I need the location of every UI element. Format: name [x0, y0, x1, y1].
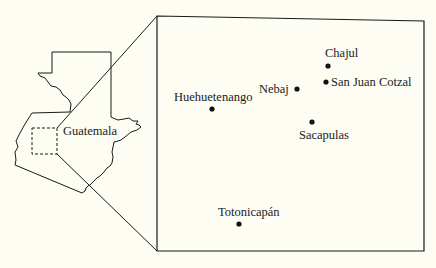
- place-label: Sacapulas: [299, 128, 349, 142]
- place-dot: [209, 106, 214, 111]
- country-label: Guatemala: [63, 124, 118, 138]
- place-dot: [236, 221, 241, 226]
- inset-frame: [157, 16, 424, 251]
- place-dot: [294, 86, 299, 91]
- place-label: Huehuetenango: [174, 90, 252, 104]
- connector-line-top: [57, 16, 157, 128]
- place-dot: [323, 79, 328, 84]
- place-huehuetenango: Huehuetenango: [174, 90, 252, 112]
- place-totonicapan: Totonicapán: [218, 205, 280, 227]
- guatemala-outline: [15, 52, 141, 193]
- place-dot: [325, 63, 330, 68]
- map-figure: Guatemala Chajul Nebaj San Juan Cotzal H…: [0, 0, 436, 268]
- place-sacapulas: Sacapulas: [299, 119, 349, 142]
- place-label: San Juan Cotzal: [331, 75, 412, 89]
- place-label: Nebaj: [259, 82, 289, 96]
- highlight-region-box: [32, 128, 57, 154]
- place-dot: [309, 119, 314, 124]
- place-nebaj: Nebaj: [259, 82, 300, 96]
- place-chajul: Chajul: [325, 46, 359, 69]
- place-label: Totonicapán: [218, 205, 280, 219]
- place-label: Chajul: [325, 46, 359, 60]
- map-canvas: Guatemala Chajul Nebaj San Juan Cotzal H…: [0, 0, 436, 268]
- place-san-juan-cotzal: San Juan Cotzal: [323, 75, 412, 89]
